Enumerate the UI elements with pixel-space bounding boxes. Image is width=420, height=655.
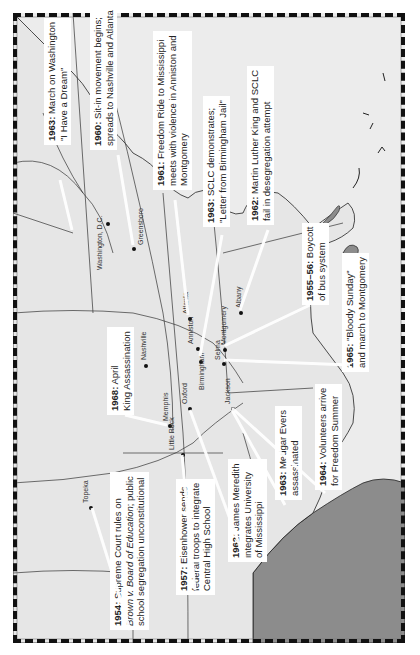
- event-1964-freedom-summer: 1964: Volunteers arrivefor Freedom Summe…: [315, 384, 342, 490]
- city-dot-washington: [106, 222, 110, 226]
- city-label-montgomery: Montgomery: [220, 306, 227, 345]
- city-dot-greensboro: [132, 247, 136, 251]
- event-1968-king-assassination: 1968: AprilKing Assassination: [107, 327, 134, 415]
- event-1957-little-rock: 1957: Eisenhower sendsfederal troops to …: [176, 479, 215, 595]
- city-dot-anniston: [196, 347, 200, 351]
- event-1962-albany: 1962: Martin Luther King and SCLCfail in…: [247, 66, 274, 225]
- event-1960-sit-in: 1960: Sit-in movement begins;spreads to …: [90, 6, 117, 150]
- city-dot-little-rock: [181, 453, 185, 457]
- city-label-birmingham: Birmingham: [198, 353, 205, 390]
- city-label-nashville: Nashville: [140, 332, 147, 360]
- event-1963-medgar-evers: 1963: Medgar Eversassassinated: [275, 406, 302, 500]
- city-label-greensboro: Greensboro: [137, 208, 144, 245]
- event-1955-bus-boycott: 1955–56: Boycottof bus system: [302, 223, 329, 305]
- event-1954-brown-v-board: 1954: Supreme Court rules onBrown v. Boa…: [110, 472, 149, 630]
- event-1963-sclc-birmingham: 1963: SCLC demonstrates;"Letter from Bir…: [203, 96, 230, 227]
- city-label-atlanta: Atlanta: [182, 292, 189, 314]
- city-dot-nashville: [144, 364, 148, 368]
- city-label-oxford: Oxford: [181, 383, 188, 404]
- city-dot-albany: [239, 311, 243, 315]
- city-label-anniston: Anniston: [187, 317, 194, 344]
- city-dot-topeka: [89, 506, 93, 510]
- city-dot-montgomery: [223, 348, 227, 352]
- city-label-topeka: Topeka: [82, 480, 89, 503]
- city-label-little-rock: Little Rock: [168, 417, 175, 450]
- city-dot-jackson: [231, 407, 235, 411]
- event-1961-freedom-ride: 1961: Freedom Ride to Mississippimeets w…: [153, 31, 192, 190]
- city-label-albany: Albany: [235, 287, 242, 308]
- event-1965-bloody-sunday: 1965: "Bloody Sunday"and march to Montgo…: [342, 253, 369, 372]
- event-1963-march-on-washington: 1963: March on Washington"I Have a Dream…: [44, 18, 71, 145]
- city-label-washington: Washington, D.C.: [96, 215, 103, 270]
- city-label-jackson: Jackson: [224, 378, 231, 404]
- city-dot-selma: [222, 362, 226, 366]
- event-1962-james-meredith: 1962: James Meredithintegrates Universit…: [228, 459, 267, 562]
- city-dot-oxford: [188, 407, 192, 411]
